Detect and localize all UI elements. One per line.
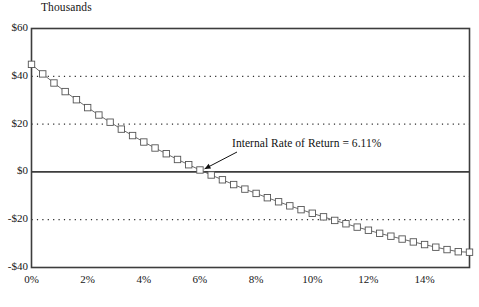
x-axis-tick-label: 4% <box>124 273 164 285</box>
y-axis-tick-label: $40 <box>0 69 28 81</box>
x-axis-tick-label: 14% <box>405 273 445 285</box>
y-axis-tick-label: -$40 <box>0 260 28 272</box>
x-axis-tick-label: 6% <box>180 273 220 285</box>
x-axis-tick-label: 0% <box>12 273 52 285</box>
y-axis-tick-label: -$20 <box>0 212 28 224</box>
y-axis-tick-label: $20 <box>0 117 28 129</box>
annotation-arrow-group <box>205 152 237 169</box>
x-axis-tick-label: 2% <box>68 273 108 285</box>
chart-root: Thousands $60$40$20$0-$20-$40 0%2%4%6%8%… <box>0 0 479 307</box>
chart-plot-area <box>0 0 479 307</box>
x-axis-tick-label: 10% <box>292 273 332 285</box>
irr-annotation-label: Internal Rate of Return = 6.11% <box>232 137 381 149</box>
y-axis-tick-label: $60 <box>0 21 28 33</box>
y-axis-tick-label: $0 <box>0 164 28 176</box>
x-axis-tick-label: 8% <box>236 273 276 285</box>
data-series-line-group <box>32 64 470 252</box>
data-series-markers-group <box>28 61 472 255</box>
x-axis-tick-label: 12% <box>348 273 388 285</box>
